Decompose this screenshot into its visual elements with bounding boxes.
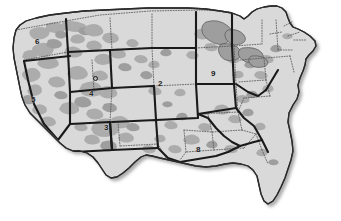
map-marker-circle-icon <box>93 76 98 81</box>
map-graphic <box>0 0 341 221</box>
us-region-map: 2 3 4 5 6 8 9 <box>0 0 341 221</box>
